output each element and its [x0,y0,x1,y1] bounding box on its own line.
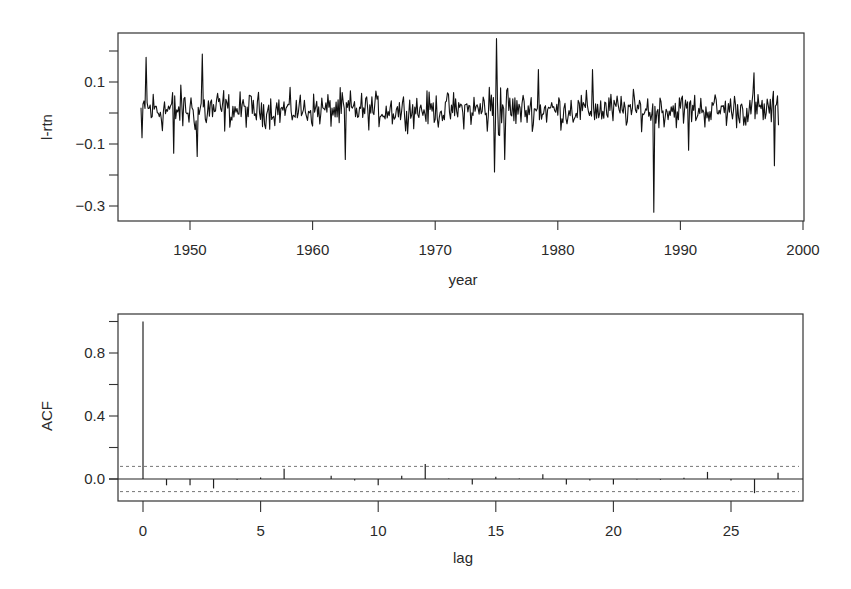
time-series-frame [118,33,804,221]
acf-x-tick-label: 15 [487,522,504,539]
x-tick-label: 1950 [173,241,206,258]
acf-bars [143,322,778,494]
y-tick-label: 0.1 [84,73,105,90]
acf-y-axis-ticks: 0.80.40.0 [84,322,118,488]
time-series-panel: 0.1−0.1−0.3 195019601970198019902000 yea… [38,33,820,288]
x-tick-label: 1980 [541,241,574,258]
acf-x-axis-title: lag [453,549,473,566]
acf-panel: 0.80.40.0 0510152025 lag ACF [38,314,803,566]
y-axis-title: l-rtn [38,114,55,140]
acf-y-axis-title: ACF [38,401,55,431]
acf-x-tick-label: 0 [139,522,147,539]
x-tick-label: 1970 [419,241,452,258]
acf-x-tick-label: 25 [723,522,740,539]
acf-frame [118,314,803,501]
acf-x-tick-label: 5 [256,522,264,539]
acf-x-axis-ticks: 0510152025 [139,501,740,539]
x-tick-label: 1990 [664,241,697,258]
log-return-series-line [141,39,779,213]
acf-y-tick-label: 0.8 [84,344,105,361]
x-tick-label: 2000 [786,241,819,258]
y-axis-ticks: 0.1−0.1−0.3 [75,51,118,214]
figure: 0.1−0.1−0.3 195019601970198019902000 yea… [0,0,851,589]
x-tick-label: 1960 [296,241,329,258]
x-axis-title: year [448,271,477,288]
acf-x-tick-label: 10 [370,522,387,539]
acf-y-tick-label: 0.0 [84,470,105,487]
acf-x-tick-label: 20 [605,522,622,539]
y-tick-label: −0.1 [75,135,105,152]
x-axis-ticks: 195019601970198019902000 [173,221,819,258]
acf-y-tick-label: 0.4 [84,407,105,424]
y-tick-label: −0.3 [75,197,105,214]
